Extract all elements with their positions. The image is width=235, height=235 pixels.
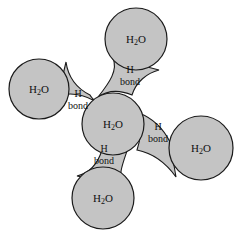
bond-label-right-line1: H xyxy=(154,121,161,132)
bond-label-bottom-line2: bond xyxy=(94,155,114,166)
molecule-top: H2O xyxy=(105,8,167,70)
molecule-circles-group: H2O H2O H2O H2O xyxy=(9,8,233,229)
bond-label-top-line2: bond xyxy=(120,76,140,87)
hydrogen-bond-diagram: H2O H2O H2O H2O xyxy=(0,0,235,235)
molecule-center: H2O xyxy=(82,93,144,155)
bond-label-right-line2: bond xyxy=(148,133,168,144)
molecule-right: H2O xyxy=(169,116,233,180)
bond-label-bottom-line1: H xyxy=(100,143,107,154)
bond-label-left-line1: H xyxy=(74,88,81,99)
molecule-bottom: H2O xyxy=(72,167,134,229)
bond-label-left-line2: bond xyxy=(68,100,88,111)
water-cluster-figure: H2O H2O H2O H2O xyxy=(0,0,235,235)
molecule-left: H2O xyxy=(9,59,69,119)
bond-label-top-line1: H xyxy=(126,64,133,75)
